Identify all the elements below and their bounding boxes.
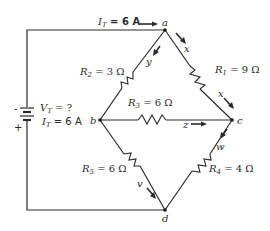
- battery-icon: [20, 108, 34, 123]
- current-x-lower-label: x: [218, 88, 224, 99]
- current-z-label: z: [182, 119, 189, 130]
- current-x-lower-arrow: [224, 98, 234, 109]
- r1-label: R1 = 9 Ω: [214, 64, 260, 77]
- battery-positive-sign: +: [14, 122, 22, 133]
- source-current-label: IT = 6 A: [41, 116, 82, 129]
- circuit-diagram: - + VT = ? IT = 6 A IT = 6 A: [0, 0, 270, 231]
- r4-label: R4 = 4 Ω: [208, 163, 254, 176]
- current-v-arrow: [147, 188, 156, 199]
- node-b: [98, 118, 102, 122]
- r5-label: R5 = 6 Ω: [81, 163, 127, 176]
- resistor-r1: [190, 66, 205, 89]
- current-y-label: y: [145, 56, 152, 67]
- source-voltage-label: VT = ?: [40, 102, 72, 115]
- current-w-label: w: [216, 141, 225, 152]
- total-current-label: IT = 6 A: [97, 16, 140, 29]
- branch-b-c: [100, 115, 232, 124]
- node-d: [163, 208, 167, 212]
- node-a: [163, 28, 167, 32]
- current-x-upper-label: x: [184, 43, 190, 54]
- battery-negative-sign: -: [14, 103, 18, 114]
- resistor-r3: [138, 115, 166, 124]
- current-z-arrow: [191, 122, 207, 127]
- total-current-arrow: [140, 22, 158, 27]
- node-d-label: d: [162, 213, 168, 224]
- node-b-label: b: [90, 115, 96, 126]
- current-w-arrow: [220, 129, 227, 139]
- r2-label: R2 = 3 Ω: [79, 66, 125, 79]
- current-y-arrow: [153, 46, 160, 56]
- node-c-label: c: [237, 115, 243, 126]
- r3-label: R3 = 6 Ω: [127, 97, 173, 110]
- node-c: [230, 118, 234, 122]
- node-a-label: a: [162, 17, 168, 28]
- current-v-label: v: [137, 178, 143, 189]
